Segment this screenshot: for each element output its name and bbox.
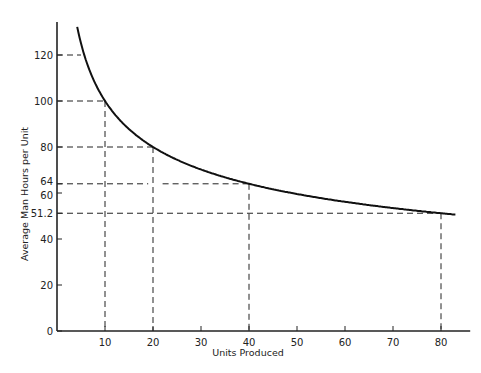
axes bbox=[57, 22, 470, 331]
x-tick-label: 60 bbox=[339, 337, 352, 348]
curve-path bbox=[77, 27, 455, 215]
tick-labels: 10203040506070800204051.2606480100120 bbox=[31, 50, 448, 348]
x-axis-title: Units Produced bbox=[212, 347, 284, 358]
y-tick-label: 40 bbox=[40, 234, 53, 245]
x-tick-label: 70 bbox=[387, 337, 400, 348]
y-tick-label: 60 bbox=[40, 190, 53, 201]
y-tick-label: 80 bbox=[40, 142, 53, 153]
y-tick-label: 120 bbox=[34, 50, 53, 61]
x-tick-label: 80 bbox=[435, 337, 448, 348]
learning-curve-line bbox=[77, 27, 455, 215]
x-tick-label: 50 bbox=[291, 337, 304, 348]
y-tick-label: 100 bbox=[34, 96, 53, 107]
x-tick-label: 20 bbox=[147, 337, 160, 348]
y-axis-title: Average Man Hours per Unit bbox=[19, 127, 30, 261]
y-tick-label: 20 bbox=[40, 280, 53, 291]
y-tick-label: 51.2 bbox=[31, 208, 53, 219]
learning-curve-chart: 10203040506070800204051.2606480100120 Un… bbox=[0, 0, 481, 373]
dashed-guide-lines bbox=[57, 55, 441, 331]
y-tick-label: 0 bbox=[47, 326, 53, 337]
x-tick-label: 30 bbox=[195, 337, 208, 348]
x-tick-label: 10 bbox=[99, 337, 112, 348]
y-tick-label: 64 bbox=[40, 176, 53, 187]
